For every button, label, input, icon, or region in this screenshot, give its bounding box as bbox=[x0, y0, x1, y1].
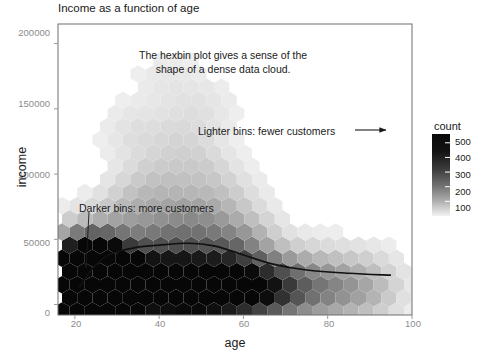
dense-cloud-annotation: The hexbin plot gives a sense of the sha… bbox=[139, 48, 307, 76]
x-tick-label: 100 bbox=[405, 318, 421, 329]
legend-tick-label: 400 bbox=[455, 152, 471, 163]
x-axis-title: age bbox=[58, 336, 412, 350]
y-tick-label: 0 bbox=[45, 307, 50, 318]
legend-title: count bbox=[434, 120, 461, 132]
y-tick-label: 150000 bbox=[18, 98, 50, 109]
lighter-bins-annotation: Lighter bins: fewer customers bbox=[198, 124, 335, 138]
x-axis-tick-labels: 20 40 60 80 100 bbox=[0, 318, 484, 338]
hexbin-cell bbox=[412, 289, 427, 307]
x-tick-label: 60 bbox=[239, 318, 250, 329]
y-tick-label: 50000 bbox=[24, 237, 50, 248]
y-axis-title: income bbox=[15, 127, 29, 207]
colorbar bbox=[432, 134, 450, 216]
legend-tick-label: 100 bbox=[455, 202, 471, 213]
x-tick-label: 40 bbox=[155, 318, 166, 329]
dense-cloud-line-2: shape of a dense data cloud. bbox=[156, 63, 291, 75]
hexbin-layer bbox=[54, 52, 426, 320]
y-axis-ticks bbox=[54, 44, 58, 305]
y-tick-label: 200000 bbox=[18, 27, 50, 38]
legend-tick-label: 300 bbox=[455, 169, 471, 180]
legend-tick-label: 200 bbox=[455, 186, 471, 197]
legend-tick-label: 500 bbox=[455, 136, 471, 147]
x-tick-label: 20 bbox=[71, 318, 82, 329]
hexbin-chart: Income as a function of age bbox=[0, 0, 484, 359]
x-tick-label: 80 bbox=[324, 318, 335, 329]
dense-cloud-line-1: The hexbin plot gives a sense of the bbox=[139, 49, 307, 61]
darker-bins-annotation: Darker bins: more customers bbox=[79, 201, 214, 215]
